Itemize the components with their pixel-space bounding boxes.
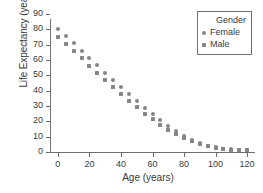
y-tick-60: 60 [46,60,50,61]
data-point-male-60 [151,117,155,121]
x-axis-title: Age (years) [50,172,246,183]
y-tick-label-30: 30 [33,100,43,111]
data-point-female-0 [56,27,60,31]
y-tick-70: 70 [46,45,50,46]
data-point-male-30 [103,78,107,82]
y-tick-label-50: 50 [33,69,43,80]
life-expectancy-scatter-chart: Life Expectancy (years) Age (years) 0102… [0,0,263,193]
legend-label-female: Female [210,27,240,38]
data-point-male-50 [135,105,139,109]
data-point-male-85 [190,139,194,143]
y-tick-0: 0 [46,152,50,153]
x-tick-40 [121,153,122,157]
x-tick-120 [247,153,248,157]
y-tick-30: 30 [46,106,50,107]
data-point-female-40 [119,85,123,89]
legend-title: Gender [202,15,247,26]
data-point-male-15 [80,56,84,60]
y-tick-label-80: 80 [33,23,43,34]
data-point-male-75 [174,132,178,136]
data-point-male-70 [166,128,170,132]
y-tick-label-0: 0 [38,146,43,157]
data-point-male-25 [95,71,99,75]
y-tick-20: 20 [46,121,50,122]
data-point-male-20 [87,64,91,68]
legend-item-female[interactable]: Female [202,27,247,38]
data-point-male-100 [214,146,218,150]
y-tick-50: 50 [46,75,50,76]
data-point-male-5 [64,42,68,46]
data-point-female-65 [158,118,162,122]
y-tick-90: 90 [46,14,50,15]
data-point-male-45 [127,99,131,103]
data-point-female-30 [103,71,107,75]
y-tick-40: 40 [46,91,50,92]
data-point-female-5 [64,34,68,38]
y-tick-label-70: 70 [33,39,43,50]
x-tick-80 [184,153,185,157]
data-point-female-10 [72,41,76,45]
y-tick-80: 80 [46,29,50,30]
data-point-male-55 [143,112,147,116]
x-tick-0 [58,153,59,157]
data-point-male-40 [119,92,123,96]
data-point-male-65 [158,123,162,127]
data-point-male-0 [56,35,60,39]
legend-marker-square-icon [202,43,206,47]
data-point-female-50 [135,99,139,103]
x-tick-label-120: 120 [240,159,255,170]
y-axis-title: Life Expectancy (years) [18,0,29,112]
data-point-male-105 [221,147,225,151]
data-point-female-55 [143,106,147,110]
x-tick-label-0: 0 [55,159,60,170]
y-tick-label-90: 90 [33,8,43,19]
x-tick-label-20: 20 [84,159,94,170]
data-point-male-90 [198,142,202,146]
legend-marker-circle-icon [202,31,206,35]
y-tick-label-60: 60 [33,54,43,65]
x-tick-label-80: 80 [179,159,189,170]
y-tick-label-40: 40 [33,85,43,96]
x-tick-label-40: 40 [116,159,126,170]
legend-item-male[interactable]: Male [202,39,247,50]
data-point-female-35 [111,78,115,82]
data-point-female-60 [151,112,155,116]
y-tick-label-10: 10 [33,131,43,142]
data-point-male-35 [111,85,115,89]
x-tick-100 [216,153,217,157]
data-point-male-80 [182,136,186,140]
x-tick-60 [153,153,154,157]
data-point-female-15 [80,49,84,53]
y-tick-10: 10 [46,137,50,138]
x-tick-label-60: 60 [147,159,157,170]
legend-box: Gender FemaleMale [197,11,252,55]
x-tick-20 [89,153,90,157]
data-point-female-45 [127,92,131,96]
data-point-male-110 [229,148,233,152]
legend-entries: FemaleMale [202,27,247,50]
data-point-female-20 [87,56,91,60]
data-point-male-95 [206,144,210,148]
y-tick-label-20: 20 [33,115,43,126]
x-tick-label-100: 100 [208,159,223,170]
data-point-female-25 [95,63,99,67]
data-point-male-115 [237,148,241,152]
data-point-male-120 [245,148,249,152]
y-axis-line [50,19,51,152]
data-point-male-10 [72,49,76,53]
legend-label-male: Male [210,39,230,50]
